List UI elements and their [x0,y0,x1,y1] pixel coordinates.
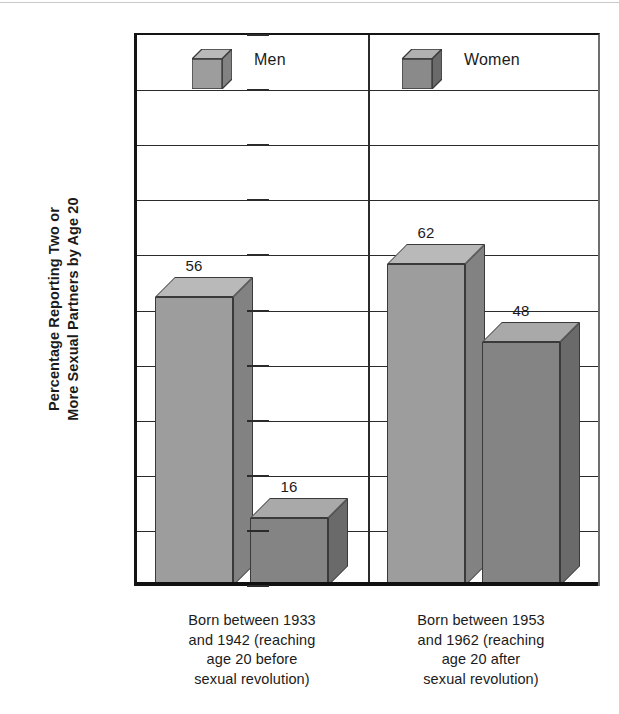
bar-front-face [155,297,233,586]
ytick-mark-50 [247,310,269,312]
ytick-mark-40 [247,365,269,367]
caption-line-2: and 1962 (reaching [366,631,596,651]
caption-line-4: sexual revolution) [137,670,367,690]
bar-value-women-group1: 16 [249,479,329,494]
ytick-mark-30 [247,420,269,422]
ytick-mark-90 [247,89,269,91]
ytick-mark-20 [247,475,269,477]
plot-inner: Men Women 56 16 [137,35,598,586]
bar-men-group1[interactable] [155,277,233,586]
caption-line-1: Born between 1933 [137,611,367,631]
x-axis-baseline [137,582,598,586]
caption-line-1: Born between 1953 [366,611,596,631]
ytick-mark-80 [247,144,269,146]
ytick-mark-70 [247,199,269,201]
ytick-mark-60 [247,254,269,256]
caption-line-4: sexual revolution) [366,670,596,690]
legend-label-men: Men [254,51,286,69]
bar-women-group1[interactable] [250,498,328,586]
bar-men-group2[interactable] [387,244,465,586]
caption-line-2: and 1942 (reaching [137,631,367,651]
category-caption-group1: Born between 1933 and 1942 (reaching age… [137,611,367,689]
category-caption-group2: Born between 1953 and 1962 (reaching age… [366,611,596,689]
plot-area: Men Women 56 16 [134,33,600,586]
y-axis-title-line-1: Percentage Reporting Two or [45,99,64,519]
bar-side-face [560,322,580,586]
ytick-mark-100 [247,34,269,36]
caption-line-3: age 20 before [137,650,367,670]
cube-3d-dark-icon [402,49,442,89]
scan-edge-line [0,2,619,3]
bar-front-face [387,264,465,586]
legend-label-women: Women [464,51,520,69]
ytick-mark-0 [247,585,269,587]
y-axis-title: Percentage Reporting Two or More Sexual … [45,99,83,519]
bar-value-women-group2: 48 [481,303,561,318]
y-axis-title-line-2: More Sexual Partners by Age 20 [64,99,83,519]
group-divider-line [368,35,370,586]
bar-value-men-group1: 56 [154,258,234,273]
bar-women-group2[interactable] [482,322,560,586]
ytick-mark-10 [247,530,269,532]
cube-3d-light-icon [192,49,232,89]
bar-value-men-group2: 62 [386,225,466,240]
caption-line-3: age 20 after [366,650,596,670]
bar-front-face [250,518,328,586]
bar-front-face [482,342,560,586]
